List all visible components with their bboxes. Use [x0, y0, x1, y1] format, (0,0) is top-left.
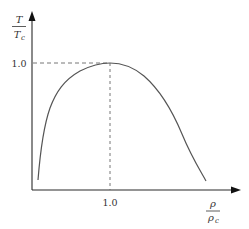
y-axis-label: T T c — [12, 14, 26, 42]
phase-diagram: T T c 1.0 1.0 ρ ρ c — [0, 0, 249, 229]
y-label-subscript: c — [21, 34, 25, 42]
x-axis-arrow-icon — [231, 187, 241, 194]
coexistence-curve — [38, 63, 206, 181]
x-label-denominator: ρ — [207, 212, 214, 223]
x-label-subscript: c — [215, 217, 219, 225]
y-tick-label: 1.0 — [11, 58, 26, 69]
y-axis-arrow-icon — [29, 11, 36, 21]
x-axis-label: ρ ρ c — [206, 198, 220, 225]
x-tick-label: 1.0 — [102, 197, 117, 208]
x-label-numerator: ρ — [209, 198, 216, 209]
y-label-numerator: T — [16, 14, 24, 25]
